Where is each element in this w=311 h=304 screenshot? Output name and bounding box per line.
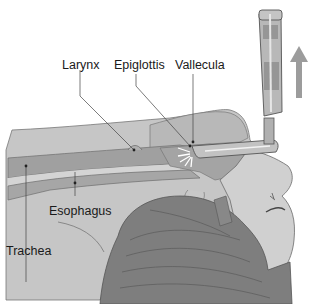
label-trachea: Trachea	[6, 245, 51, 258]
label-vallecula: Vallecula	[175, 59, 225, 72]
label-epiglottis: Epiglottis	[114, 59, 165, 72]
intubation-diagram: Larynx Epiglottis Vallecula Esophagus Tr…	[0, 0, 311, 304]
laryngoscope-handle	[259, 10, 282, 144]
diagram-illustration	[0, 0, 311, 304]
label-esophagus: Esophagus	[49, 205, 112, 218]
label-larynx: Larynx	[62, 59, 100, 72]
lift-arrow-icon	[290, 46, 308, 98]
